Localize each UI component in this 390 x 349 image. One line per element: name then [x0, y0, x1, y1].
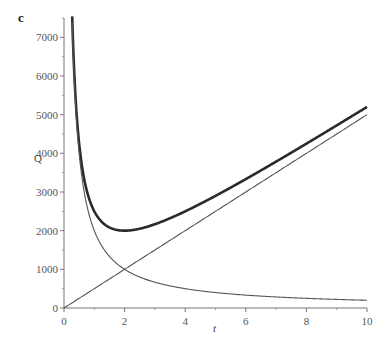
series-line-1 — [72, 22, 367, 301]
y-tick-label: 2000 — [36, 225, 59, 237]
plot-series — [64, 16, 367, 308]
panel-label: c — [18, 10, 24, 25]
y-tick-label: 5000 — [36, 109, 59, 121]
x-tick-label: 4 — [182, 315, 188, 327]
x-tick-label: 2 — [122, 315, 128, 327]
y-tick-label: 6000 — [36, 70, 59, 82]
y-tick-label: 0 — [53, 302, 59, 314]
x-tick-label: 8 — [304, 315, 310, 327]
x-ticks: 0246810 — [61, 308, 373, 327]
chart-svg: c 01000200030004000500060007000 0246810 … — [0, 0, 390, 349]
y-ticks: 01000200030004000500060007000 — [36, 18, 64, 314]
x-tick-label: 10 — [362, 315, 374, 327]
x-axis-label: t — [213, 322, 217, 334]
x-tick-label: 6 — [243, 315, 249, 327]
series-line-0 — [72, 16, 367, 230]
x-tick-label: 0 — [61, 315, 67, 327]
y-tick-label: 7000 — [36, 31, 59, 43]
y-tick-label: 3000 — [36, 186, 59, 198]
y-axis-label: Q — [34, 152, 42, 164]
y-tick-label: 1000 — [36, 263, 59, 275]
axes — [64, 18, 367, 308]
series-line-2 — [64, 115, 367, 308]
